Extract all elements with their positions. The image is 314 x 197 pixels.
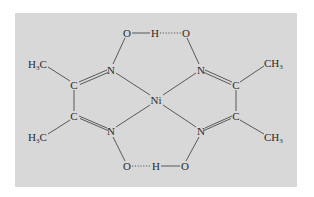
bond-n-o-lower-right — [186, 137, 199, 161]
bond-n-c-upper-left-a — [79, 70, 107, 82]
bond-ni-n-lower-right — [163, 105, 196, 127]
bond-c-n-lower-right-b — [204, 119, 231, 131]
bond-c-methyl-lower-left — [48, 120, 70, 134]
methyl-lower-left: H3C — [28, 131, 47, 145]
atom-labels: O H O N N C C Ni C C N N O H O H3C H3C C… — [28, 27, 283, 172]
bond-n-c-upper-left-b — [80, 73, 108, 85]
bond-n-ni-upper-right — [163, 73, 196, 95]
atom-c-upper-left: C — [70, 79, 77, 91]
methyl-upper-left: H3C — [28, 58, 47, 72]
atom-c-lower-right: C — [232, 110, 239, 122]
bond-ni-n-lower-left — [116, 105, 150, 127]
atom-c-lower-left: C — [70, 110, 77, 122]
bond-c-methyl-lower-right — [240, 120, 264, 134]
atom-n-upper-left: N — [107, 64, 115, 76]
bond-n-ni-upper-left — [116, 73, 150, 95]
atom-ni-center: Ni — [151, 94, 162, 106]
atom-n-lower-right: N — [197, 125, 205, 137]
atom-h-bottom: H — [152, 160, 160, 172]
bond-o-n-upper-right — [187, 38, 199, 64]
nickel-dimethylglyoxime-structure: O H O N N C C Ni C C N N O H O H3C H3C C… — [0, 0, 314, 197]
bond-c-n-lower-left-a — [79, 116, 107, 128]
bond-n-c-upper-right-a — [205, 70, 232, 82]
bond-n-c-upper-right-b — [204, 73, 231, 85]
methyl-lower-right: CH3 — [264, 131, 283, 145]
atom-o-top-right: O — [182, 27, 190, 39]
bond-c-n-lower-right-a — [205, 116, 232, 128]
atom-o-bottom-left: O — [123, 160, 131, 172]
atom-o-bottom-right: O — [181, 160, 189, 172]
bond-c-methyl-upper-left — [48, 67, 70, 81]
bond-c-n-lower-left-b — [80, 119, 108, 131]
atom-c-upper-right: C — [232, 79, 239, 91]
atom-n-upper-right: N — [197, 64, 205, 76]
bond-c-methyl-upper-right — [240, 66, 264, 82]
methyl-upper-right: CH3 — [264, 57, 283, 71]
atom-h-top: H — [151, 27, 159, 39]
atom-n-lower-left: N — [107, 125, 115, 137]
bond-n-o-lower-left — [113, 137, 125, 161]
atom-o-top-left: O — [123, 27, 131, 39]
bond-o-n-upper-left — [113, 38, 125, 64]
